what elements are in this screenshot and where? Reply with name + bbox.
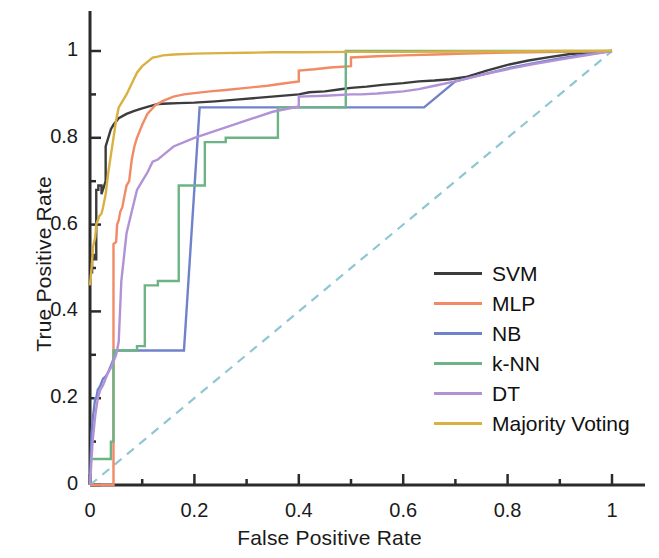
legend-item-mlp: MLP [434,288,630,318]
legend-item-nb: NB [434,318,630,348]
y-axis-title: True Positive Rate [32,114,56,414]
legend-item-svm: SVM [434,258,630,288]
legend-swatch-icon [434,422,482,425]
legend-item-k-nn: k-NN [434,348,630,378]
y-tick-label: 1 [18,38,78,61]
x-tick-label: 0.6 [373,499,433,522]
legend-item-label: k-NN [492,353,540,374]
y-tick-label: 0.2 [18,385,78,408]
legend-item-label: DT [492,383,520,404]
roc-curve-figure: False Positive Rate True Positive Rate 0… [0,0,659,558]
roc-curve-majority-voting [90,51,612,285]
roc-curve-svm [90,51,612,272]
y-tick-label: 0.6 [18,212,78,235]
legend: SVMMLPNBk-NNDTMajority Voting [434,258,630,438]
legend-item-label: SVM [492,263,538,284]
y-tick-label: 0 [18,472,78,495]
legend-item-label: NB [492,323,521,344]
y-tick-label: 0.8 [18,125,78,148]
legend-swatch-icon [434,332,482,335]
legend-item-majority-voting: Majority Voting [434,408,630,438]
legend-swatch-icon [434,362,482,365]
x-tick-label: 0 [60,499,120,522]
x-tick-label: 0.8 [478,499,538,522]
legend-item-dt: DT [434,378,630,408]
legend-item-label: Majority Voting [492,413,630,434]
x-tick-label: 1 [582,499,642,522]
x-axis-title: False Positive Rate [0,526,659,550]
legend-swatch-icon [434,272,482,275]
legend-swatch-icon [434,392,482,395]
x-tick-label: 0.2 [164,499,224,522]
legend-swatch-icon [434,302,482,305]
y-tick-label: 0.4 [18,298,78,321]
legend-item-label: MLP [492,293,535,314]
x-tick-label: 0.4 [269,499,329,522]
